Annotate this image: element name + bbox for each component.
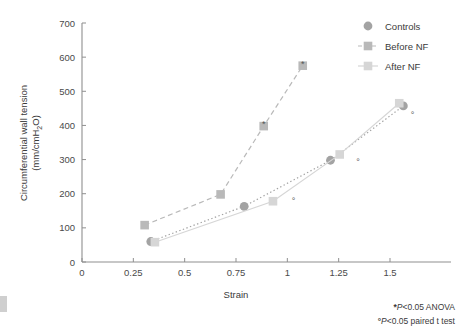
legend-marker-circle bbox=[364, 22, 373, 31]
legend-marker-square bbox=[364, 42, 373, 51]
significance-asterisk: * bbox=[262, 119, 266, 129]
y-tick-label: 0 bbox=[70, 257, 75, 268]
x-tick-label: 1.5 bbox=[383, 267, 396, 278]
chart-figure: 00.250.50.7511.251.501002003004005006007… bbox=[0, 0, 463, 332]
legend-label-controls: Controls bbox=[385, 21, 421, 32]
data-point-controls bbox=[240, 202, 249, 211]
data-point-after-nf bbox=[395, 99, 404, 108]
significance-degree: ° bbox=[292, 196, 296, 206]
y-tick-label: 100 bbox=[59, 222, 75, 233]
y-tick-label: 700 bbox=[59, 18, 75, 29]
x-tick-label: 0.5 bbox=[178, 267, 191, 278]
legend-label-after-nf: After NF bbox=[385, 61, 421, 72]
y-tick-label: 300 bbox=[59, 154, 75, 165]
y-axis-title-line1: Circumferential wall tension bbox=[18, 85, 29, 201]
significance-degree: ° bbox=[411, 110, 415, 120]
y-axis-title-line2: (mm/cmH2O) bbox=[30, 115, 43, 171]
data-point-before-nf bbox=[216, 190, 225, 199]
y-tick-label: 600 bbox=[59, 52, 75, 63]
data-point-before-nf bbox=[140, 221, 149, 230]
data-point-after-nf bbox=[269, 197, 278, 206]
x-tick-label: 0.75 bbox=[227, 267, 246, 278]
x-tick-label: 1 bbox=[285, 267, 290, 278]
x-tick-label: 1.25 bbox=[329, 267, 348, 278]
page-edge-marker bbox=[0, 296, 7, 312]
data-point-after-nf bbox=[151, 238, 160, 247]
legend-marker-square bbox=[364, 62, 373, 71]
series-line-before-nf bbox=[145, 66, 303, 225]
significance-asterisk: * bbox=[301, 59, 305, 69]
series-line-after-nf bbox=[155, 103, 399, 242]
x-tick-label: 0.25 bbox=[124, 267, 143, 278]
data-point-after-nf bbox=[335, 150, 344, 159]
chart-canvas: 00.250.50.7511.251.501002003004005006007… bbox=[0, 0, 463, 332]
x-axis-title: Strain bbox=[224, 289, 249, 300]
footnote-1: *P<0.05 ANOVA bbox=[393, 302, 455, 312]
legend-label-before-nf: Before NF bbox=[385, 41, 428, 52]
y-tick-label: 400 bbox=[59, 120, 75, 131]
x-tick-label: 0 bbox=[79, 267, 84, 278]
series-line-controls bbox=[151, 106, 403, 242]
y-tick-label: 200 bbox=[59, 188, 75, 199]
y-tick-label: 500 bbox=[59, 86, 75, 97]
significance-degree: ° bbox=[356, 157, 360, 167]
footnote-2: °P<0.05 paired t test bbox=[378, 316, 456, 326]
